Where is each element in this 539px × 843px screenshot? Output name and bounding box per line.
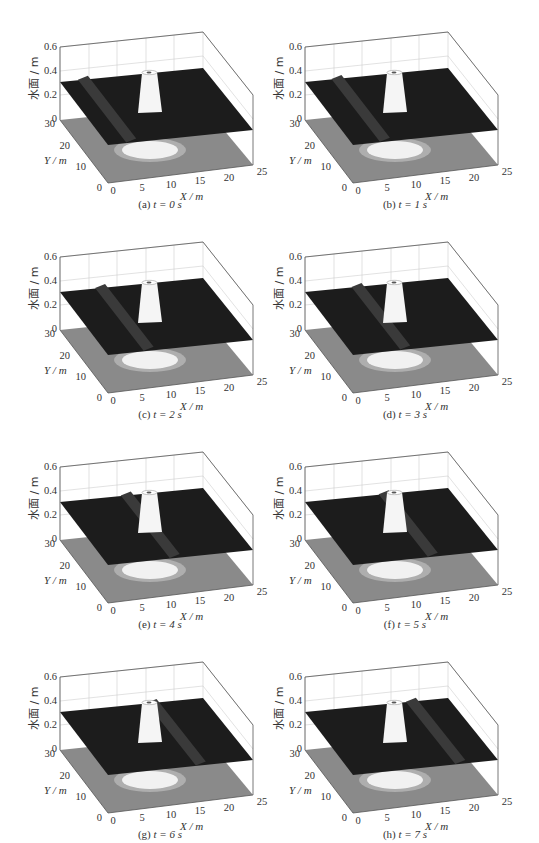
svg-text:0: 0 [110, 815, 115, 826]
svg-text:0: 0 [110, 395, 115, 406]
svg-text:25: 25 [502, 376, 513, 387]
svg-text:10: 10 [321, 791, 332, 802]
svg-text:0.4: 0.4 [289, 695, 303, 706]
svg-text:0: 0 [97, 182, 102, 193]
svg-text:10: 10 [411, 809, 422, 820]
svg-text:0.4: 0.4 [289, 275, 303, 286]
surface-plot: 0.6 0.4 0.2 0 水面 / m 30 20 10 0 Y / m 0 … [245, 0, 515, 210]
svg-text:15: 15 [440, 805, 451, 816]
svg-text:25: 25 [502, 796, 513, 807]
surface-plot-panel-a: 0.6 0.4 0.2 0 水面 / m 30 20 10 0 Y / m 0 … [0, 0, 270, 210]
svg-text:10: 10 [76, 371, 87, 382]
y-axis-label: Y / m [289, 784, 312, 796]
y-axis-label: Y / m [44, 574, 67, 586]
svg-text:20: 20 [469, 592, 480, 603]
z-axis-label: 水面 / m [273, 57, 286, 100]
svg-text:10: 10 [166, 599, 177, 610]
panel-caption: (d) t = 3 s [305, 408, 505, 420]
y-axis-label: Y / m [44, 784, 67, 796]
surface-plot-panel-b: 0.6 0.4 0.2 0 水面 / m 30 20 10 0 Y / m 0 … [245, 0, 515, 210]
z-axis-ticks: 0.6 0.4 0.2 0 [289, 41, 303, 124]
svg-text:0.6: 0.6 [289, 671, 302, 682]
svg-text:20: 20 [305, 770, 316, 781]
svg-text:0.4: 0.4 [44, 695, 58, 706]
panel-caption: (g) t = 6 s [60, 828, 260, 840]
svg-text:0: 0 [355, 185, 360, 196]
z-axis-ticks: 0.6 0.4 0.2 0 [289, 461, 303, 544]
z-axis-ticks: 0.6 0.4 0.2 0 [289, 251, 303, 334]
surface-plot: 0.6 0.4 0.2 0 水面 / m 30 20 10 0 Y / m 0 … [0, 210, 270, 420]
svg-text:15: 15 [440, 385, 451, 396]
svg-text:0.4: 0.4 [44, 485, 58, 496]
svg-text:0.4: 0.4 [289, 485, 303, 496]
svg-text:15: 15 [195, 805, 206, 816]
panel-caption: (h) t = 7 s [305, 828, 505, 840]
svg-text:0: 0 [110, 185, 115, 196]
surface-plot-panel-g: 0.6 0.4 0.2 0 水面 / m 30 20 10 0 Y / m 0 … [0, 630, 270, 840]
svg-text:5: 5 [139, 182, 144, 193]
y-axis-label: Y / m [289, 364, 312, 376]
svg-text:20: 20 [469, 172, 480, 183]
svg-text:20: 20 [60, 560, 71, 571]
svg-text:5: 5 [384, 602, 389, 613]
svg-text:5: 5 [139, 602, 144, 613]
svg-text:0: 0 [342, 392, 347, 403]
surface-plot-panel-e: 0.6 0.4 0.2 0 水面 / m 30 20 10 0 Y / m 0 … [0, 420, 270, 630]
svg-text:30: 30 [290, 118, 301, 129]
surface-plot-panel-d: 0.6 0.4 0.2 0 水面 / m 30 20 10 0 Y / m 0 … [245, 210, 515, 420]
z-axis-label: 水面 / m [28, 687, 41, 730]
svg-text:0: 0 [342, 602, 347, 613]
svg-text:5: 5 [384, 392, 389, 403]
svg-text:10: 10 [166, 809, 177, 820]
svg-text:10: 10 [166, 179, 177, 190]
svg-text:15: 15 [440, 595, 451, 606]
svg-text:20: 20 [224, 802, 235, 813]
panel-caption: (a) t = 0 s [60, 198, 260, 210]
svg-text:10: 10 [321, 161, 332, 172]
svg-text:0.6: 0.6 [44, 461, 57, 472]
svg-text:10: 10 [411, 599, 422, 610]
svg-text:20: 20 [60, 770, 71, 781]
svg-text:20: 20 [224, 172, 235, 183]
svg-text:0: 0 [355, 605, 360, 616]
svg-text:10: 10 [411, 179, 422, 190]
svg-text:0: 0 [97, 602, 102, 613]
svg-text:0.4: 0.4 [44, 275, 58, 286]
panel-caption: (b) t = 1 s [305, 198, 505, 210]
svg-text:0: 0 [97, 812, 102, 823]
svg-text:0.2: 0.2 [289, 509, 302, 520]
z-axis-label: 水面 / m [28, 267, 41, 310]
svg-text:20: 20 [305, 560, 316, 571]
svg-text:15: 15 [195, 595, 206, 606]
svg-text:30: 30 [290, 748, 301, 759]
svg-text:5: 5 [139, 812, 144, 823]
svg-text:0.2: 0.2 [289, 89, 302, 100]
surface-plot: 0.6 0.4 0.2 0 水面 / m 30 20 10 0 Y / m 0 … [0, 420, 270, 630]
svg-text:10: 10 [411, 389, 422, 400]
svg-text:0.4: 0.4 [44, 65, 58, 76]
svg-text:0.6: 0.6 [289, 461, 302, 472]
svg-text:30: 30 [290, 328, 301, 339]
surface-plot: 0.6 0.4 0.2 0 水面 / m 30 20 10 0 Y / m 0 … [245, 420, 515, 630]
surface-plot: 0.6 0.4 0.2 0 水面 / m 30 20 10 0 Y / m 0 … [245, 630, 515, 840]
surface-plot-panel-c: 0.6 0.4 0.2 0 水面 / m 30 20 10 0 Y / m 0 … [0, 210, 270, 420]
svg-text:0: 0 [97, 392, 102, 403]
svg-text:20: 20 [469, 802, 480, 813]
svg-text:20: 20 [224, 592, 235, 603]
svg-text:15: 15 [195, 175, 206, 186]
svg-text:0.6: 0.6 [289, 41, 302, 52]
svg-text:10: 10 [321, 371, 332, 382]
panel-caption: (c) t = 2 s [60, 408, 260, 420]
svg-text:0.6: 0.6 [289, 251, 302, 262]
svg-text:20: 20 [305, 140, 316, 151]
svg-text:0.4: 0.4 [289, 65, 303, 76]
svg-text:0.2: 0.2 [289, 299, 302, 310]
svg-text:30: 30 [45, 118, 56, 129]
svg-text:10: 10 [166, 389, 177, 400]
svg-text:10: 10 [76, 161, 87, 172]
svg-text:5: 5 [139, 392, 144, 403]
surface-plot: 0.6 0.4 0.2 0 水面 / m 30 20 10 0 Y / m 0 … [245, 210, 515, 420]
svg-text:0: 0 [342, 812, 347, 823]
surface-plot: 0.6 0.4 0.2 0 水面 / m 30 20 10 0 Y / m 0 … [0, 630, 270, 840]
svg-text:0.6: 0.6 [44, 671, 57, 682]
